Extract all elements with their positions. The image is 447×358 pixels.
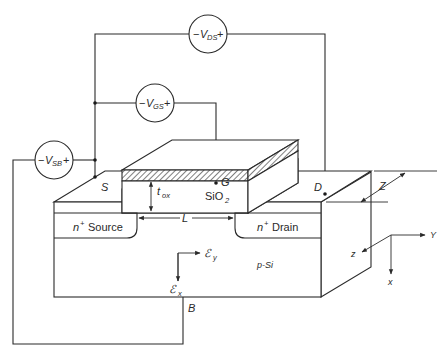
svg-text:2: 2: [224, 196, 230, 205]
junction-dot: [93, 101, 97, 105]
svg-text:n: n: [73, 221, 79, 233]
svg-text:G: G: [221, 176, 230, 188]
svg-text:+: +: [264, 219, 269, 228]
svg-text:+: +: [164, 97, 170, 109]
mosfet-diagram: − V DS + − V GS + − V SB +: [0, 0, 447, 358]
svg-text:p-Si: p-Si: [256, 260, 274, 270]
svg-text:S: S: [101, 181, 109, 193]
svg-text:+: +: [63, 154, 69, 166]
svg-text:z: z: [350, 249, 356, 259]
svg-text:+: +: [80, 219, 85, 228]
svg-text:+: +: [217, 28, 223, 40]
svg-text:DS: DS: [207, 33, 217, 42]
svg-text:GS: GS: [153, 102, 164, 111]
vsb-source: − V SB +: [35, 141, 73, 179]
svg-text:Y: Y: [430, 230, 437, 240]
svg-text:−: −: [139, 97, 145, 109]
svg-text:−: −: [193, 28, 199, 40]
svg-text:Source: Source: [88, 221, 123, 233]
svg-text:SB: SB: [52, 159, 62, 168]
svg-text:B: B: [188, 302, 195, 314]
junction-dot: [93, 158, 97, 162]
source-contact-dot: [93, 175, 97, 179]
svg-text:x: x: [387, 277, 393, 287]
svg-text:n: n: [257, 221, 263, 233]
svg-text:ℰ: ℰ: [169, 283, 177, 295]
vgs-source: − V GS +: [136, 84, 174, 122]
svg-text:L: L: [182, 212, 188, 224]
gate-contact-dot: [214, 181, 218, 185]
svg-text:ox: ox: [162, 191, 170, 200]
svg-text:x: x: [177, 289, 182, 298]
svg-text:SiO: SiO: [205, 190, 224, 202]
svg-text:D: D: [314, 181, 322, 193]
vds-source: − V DS +: [189, 15, 227, 53]
mosfet-structure: [54, 140, 371, 297]
svg-text:Drain: Drain: [272, 221, 298, 233]
svg-text:−: −: [38, 154, 44, 166]
svg-text:Z: Z: [378, 180, 387, 192]
drain-contact-dot: [323, 192, 327, 196]
svg-text:ℰ: ℰ: [204, 247, 212, 259]
